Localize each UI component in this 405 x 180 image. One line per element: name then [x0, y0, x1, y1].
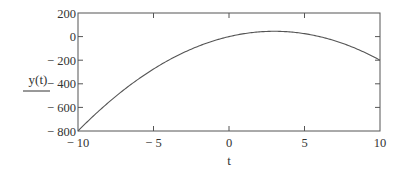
plot-frame	[78, 13, 380, 131]
x-tick-label: 5	[301, 136, 307, 150]
x-axis-label: t	[227, 153, 231, 168]
y-axis-label: y(t)	[29, 72, 48, 87]
y-tick-label: − 200	[47, 54, 76, 68]
x-tick-label: − 10	[67, 136, 90, 150]
data-series-y-of-t	[78, 31, 380, 131]
x-tick-label: 10	[374, 136, 387, 150]
x-tick-label: 0	[226, 136, 232, 150]
y-tick-label: 200	[57, 7, 76, 21]
chart-plot: 2000− 200− 400− 600− 800 − 10− 50510 y(t…	[0, 0, 405, 180]
x-tick-label: − 5	[145, 136, 161, 150]
y-tick-label: − 600	[47, 101, 76, 115]
x-axis: − 10− 50510	[67, 13, 387, 150]
y-tick-label: − 400	[47, 77, 76, 91]
y-tick-label: 0	[70, 30, 76, 44]
y-axis: 2000− 200− 400− 600− 800	[47, 7, 380, 139]
